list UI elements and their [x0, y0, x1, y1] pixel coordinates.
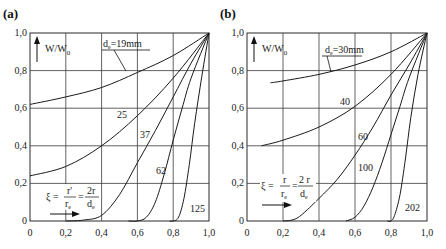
- x-tick-label: 0,4: [95, 227, 108, 238]
- x-tick-label: 0: [245, 227, 250, 238]
- label-de-30mm: de=30mm: [325, 44, 364, 56]
- panel-b-ticks: 00,20,40,60,81,000,20,40,60,81,0: [232, 27, 434, 238]
- label-25: 25: [117, 109, 127, 120]
- x-tick-label: 0,8: [167, 227, 180, 238]
- curve-de-30mm: [270, 33, 427, 83]
- panel-a: (a) 00,20,40,60,81,000,20,40,60,81,0 W/W…: [3, 6, 215, 238]
- y-tick-label: 0,6: [232, 102, 245, 113]
- label-40: 40: [340, 96, 350, 107]
- x-direction-arrow-icon: [50, 211, 80, 217]
- y-tick-label: 0,8: [15, 65, 28, 76]
- svg-text:ξ =: ξ =: [46, 191, 59, 203]
- x-tick-label: 0,6: [131, 227, 144, 238]
- y-tick-label: 0: [239, 215, 244, 226]
- y-tick-label: 0,2: [15, 177, 28, 188]
- figure: (a) 00,20,40,60,81,000,20,40,60,81,0 W/W…: [0, 0, 446, 249]
- y-tick-label: 0: [22, 215, 27, 226]
- svg-text:=: =: [292, 180, 298, 191]
- svg-text:r': r': [67, 185, 72, 196]
- panel-a-ylabel: W/W0: [45, 43, 71, 57]
- curve-125: [170, 33, 209, 221]
- label-de-19mm: de=19mm: [103, 38, 142, 50]
- svg-text:=: =: [78, 191, 84, 202]
- x-direction-arrow-icon: [262, 202, 292, 208]
- label-100: 100: [358, 162, 373, 173]
- svg-text:2 r: 2 r: [299, 174, 311, 185]
- y-tick-label: 0,4: [15, 140, 28, 151]
- y-tick-label: 1,0: [15, 27, 28, 38]
- label-37: 37: [140, 129, 150, 140]
- y-axis-arrow-icon: [251, 36, 257, 62]
- x-tick-label: 0: [28, 227, 33, 238]
- y-tick-label: 0,2: [232, 177, 245, 188]
- y-tick-label: 0,4: [232, 140, 245, 151]
- svg-text:ξ =: ξ =: [261, 180, 274, 192]
- x-tick-label: 0,2: [277, 227, 290, 238]
- x-tick-label: 0,6: [349, 227, 362, 238]
- curve-25: [30, 33, 209, 176]
- label-60: 60: [358, 131, 368, 142]
- y-axis-arrow-icon: [34, 36, 40, 62]
- label-62: 62: [156, 165, 166, 176]
- svg-text:2r: 2r: [87, 185, 96, 196]
- x-tick-label: 0,2: [60, 227, 73, 238]
- panel-b-title: (b): [220, 6, 236, 21]
- x-tick-label: 0,8: [385, 227, 398, 238]
- x-tick-label: 0,4: [313, 227, 326, 238]
- panel-b: (b) 00,20,40,60,81,000,20,40,60,81,0 W/W…: [220, 6, 433, 238]
- y-tick-label: 0,8: [232, 65, 245, 76]
- x-tick-label: 1,0: [421, 227, 434, 238]
- y-tick-label: 0,6: [15, 102, 28, 113]
- panel-b-ylabel: W/W0: [262, 43, 288, 57]
- curve-100: [346, 33, 427, 221]
- y-tick-label: 1,0: [232, 27, 245, 38]
- label-125: 125: [190, 203, 205, 214]
- curve-62: [128, 33, 209, 221]
- label-202: 202: [405, 202, 420, 213]
- panel-a-title: (a): [3, 6, 18, 21]
- x-tick-label: 1,0: [203, 227, 216, 238]
